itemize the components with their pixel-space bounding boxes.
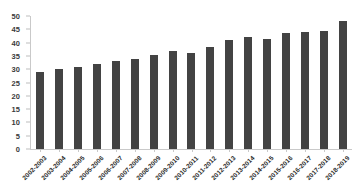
y-tick-label: 0 (16, 145, 20, 154)
x-tick-mark (305, 149, 306, 152)
bar-slot (314, 16, 333, 149)
bar-slot (163, 16, 182, 149)
y-tick-label: 10 (11, 118, 20, 127)
bar[interactable] (55, 69, 63, 149)
bar-slot (144, 16, 163, 149)
bar[interactable] (131, 59, 139, 149)
bar[interactable] (169, 51, 177, 149)
x-tick-mark (97, 149, 98, 152)
bar-slot (69, 16, 88, 149)
bar[interactable] (244, 37, 252, 149)
x-tick-mark (229, 149, 230, 152)
y-tick-label: 25 (11, 78, 20, 87)
bar[interactable] (339, 21, 347, 149)
x-tick-mark (343, 149, 344, 152)
y-tick-label: 20 (11, 91, 20, 100)
bar[interactable] (187, 53, 195, 149)
x-tick-mark (78, 149, 79, 152)
y-tick-label: 30 (11, 65, 20, 74)
bar-slot (239, 16, 258, 149)
bar-slot (31, 16, 50, 149)
bar[interactable] (112, 61, 120, 149)
x-tick-mark (248, 149, 249, 152)
bar-slot (258, 16, 277, 149)
y-tick-label: 45 (11, 25, 20, 34)
bar[interactable] (150, 55, 158, 149)
bar-slot (276, 16, 295, 149)
bar[interactable] (206, 47, 214, 149)
bar-chart: 05101520253035404550 2002-20032003-20042… (0, 0, 356, 194)
bar-slot (333, 16, 352, 149)
x-tick-mark (286, 149, 287, 152)
x-tick-mark (59, 149, 60, 152)
bar[interactable] (225, 40, 233, 149)
bar-slot (220, 16, 239, 149)
bar-slot (107, 16, 126, 149)
bar-slot (88, 16, 107, 149)
x-tick-mark (210, 149, 211, 152)
bar[interactable] (93, 64, 101, 149)
y-tick-label: 5 (16, 131, 20, 140)
bar[interactable] (282, 33, 290, 149)
bar-slot (50, 16, 69, 149)
x-tick-mark (116, 149, 117, 152)
y-tick-label: 40 (11, 38, 20, 47)
bar[interactable] (74, 67, 82, 149)
y-tick-label: 50 (11, 12, 20, 21)
x-tick-mark (154, 149, 155, 152)
x-tick-mark (173, 149, 174, 152)
y-axis: 05101520253035404550 (0, 0, 28, 194)
bar[interactable] (36, 72, 44, 149)
x-tick-mark (267, 149, 268, 152)
bar[interactable] (263, 39, 271, 149)
plot-area (31, 16, 352, 149)
x-tick-mark (324, 149, 325, 152)
bar-slot (182, 16, 201, 149)
bar-slot (125, 16, 144, 149)
bar-slot (201, 16, 220, 149)
x-tick-mark (192, 149, 193, 152)
y-tick-label: 15 (11, 105, 20, 114)
x-tick-mark (40, 149, 41, 152)
x-tick-mark (135, 149, 136, 152)
bar-slot (295, 16, 314, 149)
y-tick-label: 35 (11, 51, 20, 60)
bar[interactable] (320, 31, 328, 149)
bar[interactable] (301, 32, 309, 149)
